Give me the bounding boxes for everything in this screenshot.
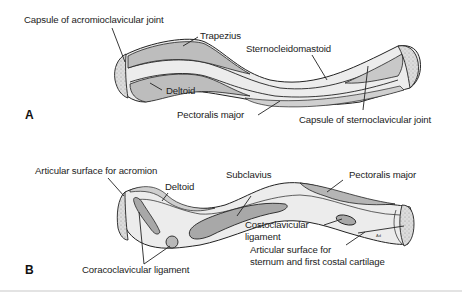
label-pectoralis-major-b: Pectoralis major	[349, 169, 416, 180]
clavicle-illustration	[0, 0, 462, 293]
label-sternocleidomastoid: Sternocleidomastoid	[246, 43, 331, 54]
bottom-divider	[0, 290, 462, 292]
label-deltoid-b: Deltoid	[165, 181, 194, 192]
artist-signature: Ad	[376, 233, 381, 238]
label-articular-surface-sternum-line2: sternum and first costal cartilage	[250, 256, 385, 267]
label-capsule-acromioclavicular-joint: Capsule of acromioclavicular joint	[24, 14, 164, 25]
label-articular-surface-sternum-line1: Articular surface for	[250, 244, 331, 255]
label-trapezius: Trapezius	[200, 30, 241, 41]
label-coracoclavicular-ligament: Coracoclavicular ligament	[82, 264, 189, 275]
label-pectoralis-major-a: Pectoralis major	[177, 109, 244, 120]
clavicle-superior-view	[112, 28, 421, 115]
label-capsule-sternoclavicular-joint: Capsule of sternoclavicular joint	[299, 114, 431, 125]
panel-label-a: A	[25, 108, 34, 122]
label-costoclavicular: Costoclavicular	[245, 219, 309, 230]
label-subclavius: Subclavius	[226, 169, 271, 180]
panel-label-b: B	[25, 263, 34, 277]
label-costoclavicular-ligament: ligament	[245, 231, 280, 242]
label-articular-surface-acromion: Articular surface for acromion	[35, 165, 157, 176]
label-deltoid-a: Deltoid	[166, 85, 195, 96]
clavicle-diagram: Capsule of acromioclavicular joint Trape…	[0, 0, 462, 293]
